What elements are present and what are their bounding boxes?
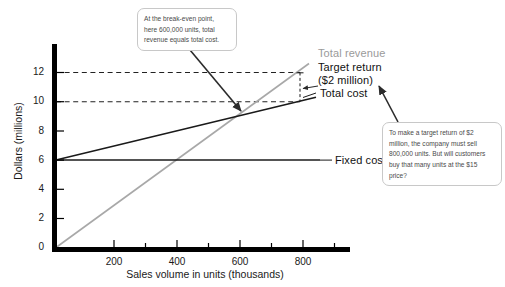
callout-target-return-line2: million, the company must sell	[389, 139, 495, 150]
series-line-total-revenue	[56, 64, 309, 248]
y-axis-ticks	[57, 73, 64, 219]
chart-figure: Dollars (millions) Sales volume in units…	[0, 0, 505, 287]
y-tick-label-10: 10	[22, 95, 44, 106]
y-tick-label-2: 2	[22, 212, 44, 223]
callout-break-even: At the break-even point, here 600,000 un…	[137, 8, 237, 51]
callout-target-return-line5: price?	[389, 171, 495, 182]
plot-area	[56, 64, 332, 248]
x-axis	[52, 247, 350, 252]
x-tick-label-400: 400	[157, 256, 197, 267]
target-return-callout-arrow	[379, 86, 398, 122]
series-label-total-cost: Total cost	[320, 87, 367, 99]
y-tick-label-12: 12	[22, 66, 44, 77]
callout-target-return-line1: To make a target return of $2	[389, 128, 495, 139]
series-label-total-revenue: Total revenue	[318, 47, 385, 59]
callout-target-return-line4: buy that many units at the $15	[389, 160, 495, 171]
y-tick-label-6: 6	[22, 154, 44, 165]
callout-break-even-line3: revenue equals total cost.	[144, 35, 230, 46]
x-tick-label-600: 600	[220, 256, 260, 267]
series-line-total-cost	[56, 97, 316, 160]
callout-break-even-line1: At the break-even point,	[144, 14, 230, 25]
series-label-target-return-line2: ($2 million)	[318, 74, 373, 86]
y-axis	[52, 44, 57, 249]
callout-target-return: To make a target return of $2 million, t…	[382, 122, 502, 186]
callout-break-even-line2: here 600,000 units, total	[144, 25, 230, 36]
y-tick-label-4: 4	[22, 183, 44, 194]
callout-target-return-line3: 800,000 units. But will customers	[389, 149, 495, 160]
y-tick-label-0: 0	[22, 241, 44, 252]
x-axis-ticks	[114, 240, 335, 247]
target-return-bracket-arrow	[303, 86, 318, 89]
series-label-target-return-line1: Target return	[318, 61, 382, 73]
total-cost-leader	[303, 93, 316, 98]
y-tick-label-8: 8	[22, 125, 44, 136]
series-label-fixed-cost: Fixed cost	[335, 154, 386, 166]
x-tick-label-200: 200	[94, 256, 134, 267]
x-tick-label-800: 800	[283, 256, 323, 267]
x-axis-title: Sales volume in units (thousands)	[55, 268, 355, 280]
